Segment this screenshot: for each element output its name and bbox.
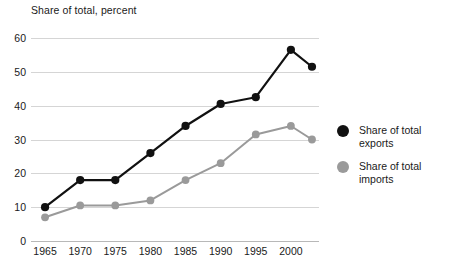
x-tick-label: 1965 xyxy=(33,245,56,257)
y-axis-ticks: 0102030405060 xyxy=(0,0,26,276)
y-tick-label: 20 xyxy=(14,168,26,179)
data-point-marker xyxy=(217,100,225,108)
x-axis-ticks: 19651970197519801985199019952000 xyxy=(0,245,458,265)
x-tick-label: 1970 xyxy=(68,245,91,257)
data-point-marker xyxy=(252,93,260,101)
data-point-marker xyxy=(217,159,225,167)
legend-marker-exports-icon xyxy=(337,125,349,137)
data-point-marker xyxy=(287,46,295,54)
legend-label-imports: Share of total imports xyxy=(359,160,457,186)
x-tick-label: 1975 xyxy=(104,245,127,257)
plot-area xyxy=(31,38,319,241)
data-point-marker xyxy=(41,213,49,221)
series-layer xyxy=(31,38,319,241)
gridline xyxy=(31,241,319,242)
y-tick-label: 60 xyxy=(14,33,26,44)
y-tick-label: 30 xyxy=(14,135,26,146)
legend-item-exports: Share of total exports xyxy=(337,124,457,150)
data-point-marker xyxy=(182,176,190,184)
chart-figure: Share of total, percent 0102030405060 19… xyxy=(0,0,458,276)
data-point-marker xyxy=(252,131,260,139)
x-tick-label: 1980 xyxy=(139,245,162,257)
legend-item-imports: Share of total imports xyxy=(337,160,457,186)
x-tick-label: 1985 xyxy=(174,245,197,257)
y-tick-label: 10 xyxy=(14,202,26,213)
data-point-marker xyxy=(181,122,189,130)
y-tick-label: 50 xyxy=(14,67,26,78)
series-imports xyxy=(41,122,316,221)
data-point-marker xyxy=(111,202,119,210)
data-point-marker xyxy=(146,149,154,157)
y-tick-label: 40 xyxy=(14,101,26,112)
series-exports xyxy=(41,46,316,212)
data-point-marker xyxy=(308,136,316,144)
data-point-marker xyxy=(76,202,84,210)
data-point-marker xyxy=(76,176,84,184)
data-point-marker xyxy=(111,176,119,184)
x-tick-label: 1990 xyxy=(209,245,232,257)
legend-label-exports: Share of total exports xyxy=(359,124,457,150)
data-point-marker xyxy=(147,197,155,205)
chart-legend: Share of total exports Share of total im… xyxy=(337,124,457,196)
legend-marker-imports-icon xyxy=(337,161,349,173)
series-line xyxy=(45,126,312,217)
data-point-marker xyxy=(308,63,316,71)
x-tick-label: 2000 xyxy=(279,245,302,257)
chart-axis-title: Share of total, percent xyxy=(31,4,137,16)
data-point-marker xyxy=(287,122,295,130)
data-point-marker xyxy=(41,203,49,211)
x-tick-label: 1995 xyxy=(244,245,267,257)
